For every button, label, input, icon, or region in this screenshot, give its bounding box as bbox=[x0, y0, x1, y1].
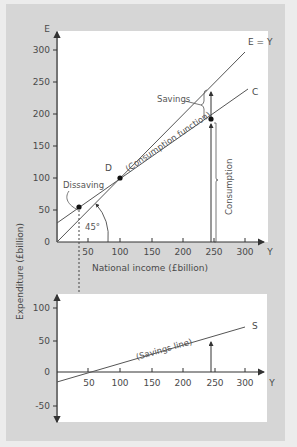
upper-plot-area bbox=[58, 31, 268, 242]
dissaving-point bbox=[76, 204, 81, 209]
savings-label: Savings bbox=[157, 94, 191, 104]
upper-y-tick-200: 200 bbox=[33, 109, 50, 119]
lower-x-tick-300: 300 bbox=[236, 378, 253, 388]
upper-y-tick-100: 100 bbox=[33, 173, 50, 183]
upper-x-tick-100: 100 bbox=[111, 247, 128, 257]
figure: 300 250 200 150 100 50 0 E 50 100 150 20… bbox=[0, 0, 297, 447]
upper-y-tick-50: 50 bbox=[39, 205, 51, 215]
lower-plot-area bbox=[58, 294, 267, 422]
line-savings-label: S bbox=[252, 321, 258, 331]
lower-x-tick-250: 250 bbox=[206, 378, 223, 388]
upper-y-tick-300: 300 bbox=[33, 45, 50, 55]
lower-y-tick-minus50: -50 bbox=[35, 401, 50, 411]
upper-y-tick-0: 0 bbox=[44, 237, 50, 247]
lower-x-symbol: Y bbox=[268, 378, 275, 388]
upper-y-symbol: E bbox=[44, 24, 50, 34]
point-d bbox=[117, 175, 122, 180]
upper-y-tick-250: 250 bbox=[33, 77, 50, 87]
consumption-label: Consumption bbox=[224, 159, 234, 215]
lower-y-tick-50: 50 bbox=[39, 336, 51, 346]
angle-label: 45° bbox=[85, 222, 100, 232]
upper-chart: 300 250 200 150 100 50 0 E 50 100 150 20… bbox=[33, 24, 273, 273]
consumption-point bbox=[208, 116, 213, 121]
lower-x-tick-150: 150 bbox=[143, 378, 160, 388]
lower-y-tick-0: 0 bbox=[44, 367, 50, 377]
upper-x-tick-50: 50 bbox=[82, 247, 94, 257]
y-axis-label: Expenditure (£billion) bbox=[15, 223, 25, 320]
upper-y-tick-150: 150 bbox=[33, 141, 50, 151]
point-d-label: D bbox=[105, 163, 112, 173]
upper-x-tick-200: 200 bbox=[174, 247, 191, 257]
lower-x-tick-200: 200 bbox=[174, 378, 191, 388]
upper-x-axis-label: National income (£billion) bbox=[92, 263, 208, 273]
upper-x-tick-300: 300 bbox=[236, 247, 253, 257]
lower-chart: 100 50 0 -50 50 100 150 200 250 300 Y S … bbox=[33, 294, 275, 422]
dissaving-label: Dissaving bbox=[63, 180, 104, 190]
line-e-equals-y-label: E = Y bbox=[248, 37, 273, 47]
lower-x-tick-100: 100 bbox=[111, 378, 128, 388]
upper-x-tick-250: 250 bbox=[205, 247, 222, 257]
upper-x-symbol: Y bbox=[266, 247, 273, 257]
line-consumption-label: C bbox=[252, 87, 258, 97]
upper-x-tick-150: 150 bbox=[143, 247, 160, 257]
lower-y-tick-100: 100 bbox=[33, 303, 50, 313]
lower-x-tick-50: 50 bbox=[83, 378, 95, 388]
